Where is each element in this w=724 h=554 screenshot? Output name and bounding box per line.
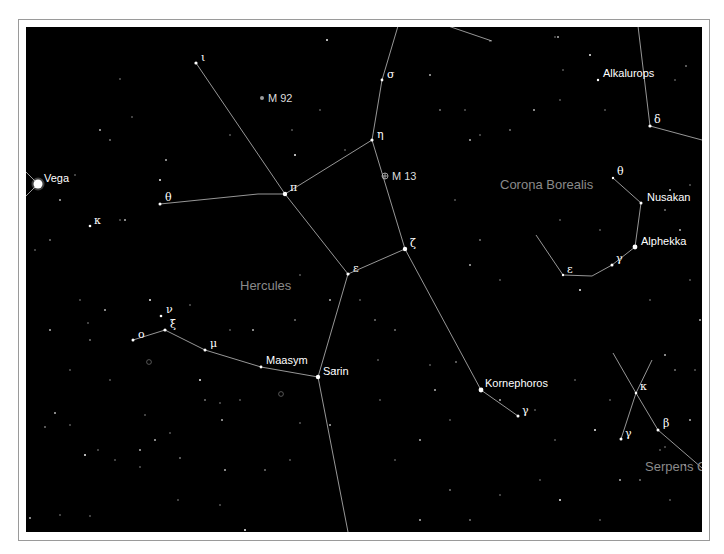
field-star: [169, 432, 170, 433]
star-greek-label: κ: [640, 380, 647, 393]
field-star: [439, 109, 440, 110]
star-icon: [635, 392, 638, 395]
star-icon: [597, 79, 599, 81]
field-star: [291, 129, 292, 130]
field-star: [469, 519, 470, 520]
constellation-line: [481, 390, 518, 416]
field-star: [562, 69, 563, 70]
deep-sky-label: M 92: [268, 92, 292, 104]
constellation-line: [160, 194, 285, 204]
field-star: [579, 289, 581, 291]
star-greek-label: ε: [567, 263, 573, 276]
deep-sky-object[interactable]: [279, 392, 284, 397]
star[interactable]: γ: [611, 252, 624, 267]
field-star: [455, 361, 456, 362]
star-name-label: Nusakan: [647, 191, 690, 203]
field-star: [434, 389, 436, 391]
field-star: [479, 134, 480, 135]
star-greek-label: θ: [165, 191, 172, 204]
star-icon: [160, 315, 163, 318]
field-star: [74, 174, 75, 175]
star-greek-label: ε: [353, 262, 359, 275]
field-star: [664, 209, 665, 210]
star[interactable]: ζ: [403, 237, 416, 251]
star-greek-label: β: [663, 417, 669, 430]
constellation-line: [196, 63, 285, 194]
field-star: [464, 109, 465, 110]
star[interactable]: ξ: [163, 318, 176, 332]
field-star: [499, 279, 500, 280]
star[interactable]: μ: [204, 337, 218, 352]
star[interactable]: κ: [635, 380, 647, 394]
named-star[interactable]: Maasym: [260, 354, 308, 368]
star-name-label: Maasym: [266, 354, 308, 366]
field-star: [139, 449, 141, 451]
constellation-line: [372, 27, 398, 140]
named-star[interactable]: Alkalurops: [597, 67, 655, 81]
star[interactable]: β: [657, 417, 670, 432]
field-star: [189, 304, 190, 305]
named-star[interactable]: Alphekka: [633, 235, 688, 249]
star[interactable]: γ: [517, 404, 530, 418]
star[interactable]: ν: [160, 303, 173, 317]
field-star: [289, 459, 290, 460]
star[interactable]: δ: [648, 113, 661, 128]
star[interactable]: θ: [159, 191, 173, 206]
field-star: [109, 379, 110, 380]
field-stars: [26, 36, 701, 531]
field-star: [294, 319, 295, 320]
named-star[interactable]: Vega: [32, 172, 70, 191]
star[interactable]: θ: [612, 165, 624, 179]
star-greek-label: π: [290, 181, 297, 194]
deep-sky-object[interactable]: M 92: [260, 92, 292, 104]
field-star: [394, 459, 395, 460]
star[interactable]: ε: [562, 263, 573, 276]
cluster-icon: [260, 96, 264, 100]
star-greek-label: θ: [617, 165, 624, 178]
field-star: [499, 399, 501, 401]
field-star: [119, 219, 120, 220]
field-star: [224, 469, 226, 471]
star-icon: [517, 415, 520, 418]
field-star: [599, 229, 600, 230]
named-star[interactable]: Kornephoros: [479, 377, 549, 392]
star-greek-label: ζ: [410, 237, 416, 250]
star-icon: [89, 225, 92, 228]
star[interactable]: ο: [132, 328, 146, 342]
field-star: [429, 364, 430, 365]
star[interactable]: ι: [194, 51, 205, 65]
star-name-label: Alphekka: [641, 235, 687, 247]
field-star: [534, 409, 535, 410]
star-icon: [194, 61, 197, 64]
star[interactable]: γ: [620, 427, 633, 441]
sky-map[interactable]: HerculesCorona BorealisSerpens CM 92M 13…: [26, 27, 702, 532]
star-icon: [260, 366, 263, 369]
deep-sky-object[interactable]: M 13: [382, 170, 416, 182]
deep-sky-label: M 13: [392, 170, 416, 182]
field-star: [44, 426, 45, 427]
star[interactable]: κ: [89, 214, 101, 227]
constellation-name: Corona Borealis: [500, 177, 594, 192]
star-icon: [640, 202, 643, 205]
field-star: [114, 459, 115, 460]
star[interactable]: π: [283, 181, 297, 196]
constellation-name: Serpens C: [645, 459, 702, 474]
star[interactable]: η: [370, 128, 383, 142]
field-star: [131, 116, 132, 117]
field-star: [139, 466, 140, 467]
deep-sky-object[interactable]: [147, 360, 152, 365]
star-icon: [620, 438, 623, 441]
named-star[interactable]: Nusakan: [640, 191, 691, 205]
field-star: [685, 65, 686, 66]
star-greek-label: γ: [522, 404, 529, 417]
star[interactable]: σ: [381, 68, 395, 81]
field-star: [559, 99, 560, 100]
star-greek-label: ξ: [170, 318, 176, 331]
star-name-label: Kornephoros: [485, 377, 548, 389]
field-star: [554, 439, 555, 440]
constellation-line: [613, 353, 702, 468]
field-star: [49, 329, 51, 331]
constellation-line: [318, 274, 348, 377]
star[interactable]: ε: [346, 262, 359, 276]
field-star: [499, 494, 500, 495]
